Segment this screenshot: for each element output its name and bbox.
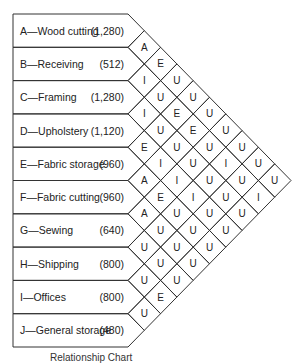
- department-row: A—Wood cutting(1,280): [13, 14, 144, 47]
- department-row: H—Shipping(800): [13, 247, 144, 280]
- relationship-cell: U: [144, 114, 177, 147]
- department-name: J—General storage: [20, 324, 111, 336]
- department-row: B—Receiving(512): [13, 47, 144, 80]
- relationship-code: U: [255, 158, 262, 169]
- relationship-cell: I: [177, 181, 210, 214]
- relationship-cell: U: [193, 197, 226, 230]
- relationship-cell: U: [210, 114, 243, 147]
- relationship-code: I: [143, 108, 146, 119]
- relationship-code: A: [141, 175, 148, 186]
- relationship-code: U: [190, 92, 197, 103]
- relationship-cell: U: [242, 147, 275, 180]
- relationship-cell: U: [161, 64, 194, 97]
- relationship-code: U: [238, 142, 245, 153]
- relationship-cell: U: [226, 131, 259, 164]
- department-row: E—Fabric storage(960): [13, 147, 144, 180]
- relationship-code: U: [238, 175, 245, 186]
- relationship-cell: U: [161, 197, 194, 230]
- relationship-cell: U: [210, 181, 243, 214]
- department-area: (640): [99, 224, 124, 236]
- relationship-code: E: [174, 108, 181, 119]
- relationship-code: U: [238, 208, 245, 219]
- relationship-cell: A: [128, 31, 161, 64]
- department-area: (960): [99, 158, 124, 170]
- department-row: D—Upholstery(1,120): [13, 114, 144, 147]
- relationship-code: U: [157, 125, 164, 136]
- department-name: E—Fabric storage: [20, 158, 105, 170]
- relationship-cell: U: [258, 164, 291, 197]
- relationship-cell: U: [128, 297, 161, 330]
- relationship-code: U: [206, 108, 213, 119]
- relationship-cell: U: [193, 131, 226, 164]
- relationship-code: I: [257, 192, 260, 203]
- department-row: J—General storage(480): [13, 314, 144, 347]
- relationship-code: U: [222, 125, 229, 136]
- relationship-code: U: [141, 242, 148, 253]
- department-area: (800): [99, 291, 124, 303]
- relationship-cell: U: [161, 264, 194, 297]
- relationship-code: I: [176, 175, 179, 186]
- department-row: C—Framing(1,280): [13, 81, 144, 114]
- department-area: (960): [99, 191, 124, 203]
- relationship-code: U: [141, 275, 148, 286]
- relationship-cell: U: [128, 230, 161, 263]
- relationship-cell: U: [161, 131, 194, 164]
- relationship-cell: U: [128, 264, 161, 297]
- relationship-cell: U: [144, 247, 177, 280]
- relationship-cell: U: [193, 230, 226, 263]
- relationship-cell: U: [193, 164, 226, 197]
- relationship-cell: I: [242, 181, 275, 214]
- relationship-code: U: [222, 225, 229, 236]
- relationship-code: U: [173, 275, 180, 286]
- department-area: (1,280): [91, 25, 124, 37]
- relationship-code: U: [173, 75, 180, 86]
- department-row: G—Sewing(640): [13, 214, 144, 247]
- relationship-cell: U: [144, 214, 177, 247]
- department-name: D—Upholstery: [20, 125, 89, 137]
- relationship-cell: E: [161, 97, 194, 130]
- department-area: (512): [99, 58, 124, 70]
- department-name: I—Offices: [20, 291, 66, 303]
- department-area: (1,120): [91, 125, 124, 137]
- relationship-cell: E: [144, 280, 177, 313]
- relationship-cell: I: [128, 97, 161, 130]
- department-name: A—Wood cutting: [20, 25, 99, 37]
- relationship-code: I: [143, 75, 146, 86]
- relationship-cell: E: [128, 131, 161, 164]
- relationship-cell: E: [177, 114, 210, 147]
- relationship-code: E: [190, 125, 197, 136]
- department-row: F—Fabric cutting(960): [13, 181, 144, 214]
- department-name: H—Shipping: [20, 258, 79, 270]
- relationship-code: A: [141, 42, 148, 53]
- relationship-cell: U: [144, 81, 177, 114]
- relationship-code: U: [173, 242, 180, 253]
- relationship-code: I: [224, 158, 227, 169]
- relationship-cell: U: [177, 147, 210, 180]
- relationship-cell: E: [144, 181, 177, 214]
- chart-caption: Relationship Chart: [50, 352, 132, 363]
- relationship-code: U: [222, 192, 229, 203]
- department-row: I—Offices(800): [13, 280, 144, 313]
- relationship-cell: A: [128, 164, 161, 197]
- relationship-code: U: [173, 208, 180, 219]
- relationship-cell: U: [226, 197, 259, 230]
- relationship-code: E: [157, 58, 164, 69]
- relationship-code: U: [206, 175, 213, 186]
- relationship-code: U: [206, 208, 213, 219]
- relationship-code: E: [157, 292, 164, 303]
- relationship-code: U: [190, 258, 197, 269]
- relationship-cell: U: [177, 247, 210, 280]
- department-name: C—Framing: [20, 91, 77, 103]
- department-area: (1,280): [91, 91, 124, 103]
- relationship-cell: U: [177, 81, 210, 114]
- relationship-code: U: [157, 258, 164, 269]
- relationship-cell: U: [226, 164, 259, 197]
- relationship-code: E: [141, 142, 148, 153]
- relationship-cell: U: [161, 230, 194, 263]
- department-name: B—Receiving: [20, 58, 84, 70]
- relationship-cell: U: [193, 97, 226, 130]
- relationship-cell: E: [144, 47, 177, 80]
- relationship-code: U: [157, 225, 164, 236]
- relationship-code: U: [206, 242, 213, 253]
